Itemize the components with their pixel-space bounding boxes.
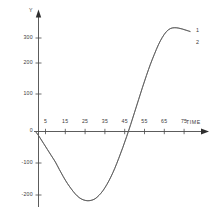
x-tick-label-45: 45 [122, 119, 128, 124]
y-axis-arrowhead [36, 10, 41, 18]
data-curve-2 [36, 28, 190, 201]
x-tick-label-35: 35 [102, 119, 108, 124]
y-tick-label-200: 200 [12, 60, 33, 65]
curve-label-1: 1 [196, 28, 199, 33]
x-tick-label-5: 5 [44, 119, 47, 124]
y-tick-label-100: 100 [12, 91, 33, 96]
chart-container: Y TIME 300 200 100 0 -100 -200 5 15 25 3… [0, 0, 217, 213]
data-curve-1 [36, 28, 190, 201]
chart-plot-area [0, 0, 217, 213]
x-axis-label: TIME [186, 120, 201, 125]
y-tick-label-minus-100: -100 [8, 160, 33, 165]
x-tick-label-55: 55 [141, 119, 147, 124]
x-tick-label-15: 15 [62, 119, 68, 124]
x-axis-arrowhead [201, 129, 209, 135]
curve-label-2: 2 [196, 40, 199, 45]
x-tick-label-75: 75 [181, 119, 187, 124]
y-tick-label-minus-200: -200 [8, 192, 33, 197]
x-tick-label-25: 25 [82, 119, 88, 124]
y-axis-label: Y [29, 8, 33, 13]
y-tick-label-0: 0 [12, 128, 33, 133]
y-tick-label-300: 300 [12, 35, 33, 40]
x-tick-label-65: 65 [161, 119, 167, 124]
